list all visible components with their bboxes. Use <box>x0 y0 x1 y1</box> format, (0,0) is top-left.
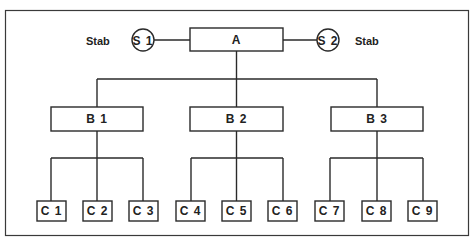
staff-caption: Stab <box>355 35 379 47</box>
node-c3: C 3 <box>129 201 158 221</box>
node-c6: C 6 <box>268 201 297 221</box>
node-a: A <box>190 28 283 51</box>
staff-label: S 1 <box>132 34 153 48</box>
org-chart-diagram: Stab S 1 S 2 Stab A B 1 B 2 B 3 C 1 C 2 … <box>0 0 475 245</box>
node-c5: C 5 <box>222 201 251 221</box>
node-b3: B 3 <box>331 107 423 131</box>
node-label: A <box>232 33 242 47</box>
node-label: C 2 <box>87 204 109 218</box>
staff-unit-s1: Stab S 1 <box>86 29 154 51</box>
node-b2: B 2 <box>190 107 283 131</box>
staff-caption: Stab <box>86 35 110 47</box>
node-label: C 6 <box>272 204 294 218</box>
node-label: C 4 <box>180 204 202 218</box>
node-label: C 9 <box>412 204 434 218</box>
node-c9: C 9 <box>408 201 437 221</box>
node-label: C 7 <box>319 204 341 218</box>
node-label: B 2 <box>226 112 248 126</box>
node-label: C 5 <box>226 204 248 218</box>
node-c7: C 7 <box>315 201 344 221</box>
node-label: C 3 <box>133 204 155 218</box>
node-c1: C 1 <box>37 201 66 221</box>
staff-label: S 2 <box>317 34 338 48</box>
node-label: B 3 <box>366 112 388 126</box>
node-b1: B 1 <box>51 107 143 131</box>
node-label: B 1 <box>86 112 108 126</box>
node-c8: C 8 <box>362 201 391 221</box>
node-label: C 8 <box>366 204 388 218</box>
node-c4: C 4 <box>176 201 205 221</box>
node-label: C 1 <box>41 204 63 218</box>
staff-unit-s2: S 2 Stab <box>317 29 379 51</box>
node-c2: C 2 <box>83 201 112 221</box>
